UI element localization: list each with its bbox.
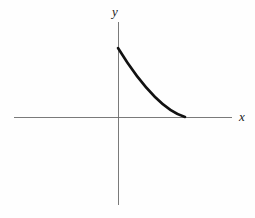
exponential-decay-curve xyxy=(118,48,185,117)
coordinate-plot xyxy=(0,0,255,218)
y-axis-label: y xyxy=(112,5,118,18)
x-axis-label: x xyxy=(239,110,245,123)
graph-figure: y x xyxy=(0,0,255,218)
